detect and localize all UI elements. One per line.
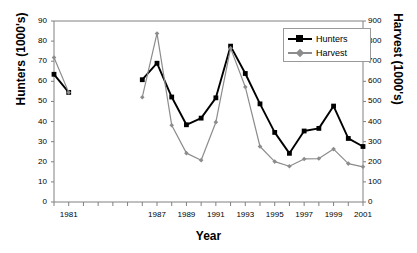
legend-marker-harvest-icon: [288, 48, 312, 58]
chart-legend: Hunters Harvest: [283, 28, 371, 62]
y-axis-right-tick-label: 200: [368, 157, 394, 166]
legend-marker-hunters-icon: [288, 34, 312, 44]
y-axis-left-tick-label: 30: [23, 137, 47, 146]
y-axis-left-tick-label: 40: [23, 117, 47, 126]
chart-container: Hunters (1000's) Harvest (1000's) Year 0…: [0, 0, 417, 253]
y-axis-right-tick-label: 500: [368, 96, 394, 105]
y-axis-right-tick-label: 900: [368, 16, 394, 25]
y-axis-right-tick-label: 300: [368, 137, 394, 146]
x-axis-tick-label: 2001: [343, 210, 383, 219]
y-axis-left-tick-label: 20: [23, 157, 47, 166]
y-axis-left-tick-label: 0: [23, 197, 47, 206]
y-axis-left-tick-label: 60: [23, 76, 47, 85]
legend-label-harvest: Harvest: [316, 48, 347, 58]
y-axis-right-tick-label: 100: [368, 177, 394, 186]
y-axis-right-tick-label: 600: [368, 76, 394, 85]
y-axis-left-tick-label: 90: [23, 16, 47, 25]
y-axis-right-tick-label: 700: [368, 56, 394, 65]
y-axis-left-tick-label: 50: [23, 96, 47, 105]
legend-label-hunters: Hunters: [316, 34, 348, 44]
y-axis-right-tick-label: 800: [368, 36, 394, 45]
y-axis-right-tick-label: 400: [368, 117, 394, 126]
y-axis-right-tick-label: 0: [368, 197, 394, 206]
x-axis-title: Year: [0, 229, 417, 243]
y-axis-left-tick-label: 80: [23, 36, 47, 45]
legend-item-hunters: Hunters: [288, 32, 366, 46]
legend-item-harvest: Harvest: [288, 46, 366, 60]
y-axis-left-tick-label: 10: [23, 177, 47, 186]
y-axis-left-tick-label: 70: [23, 56, 47, 65]
x-axis-tick-label: 1981: [49, 210, 89, 219]
